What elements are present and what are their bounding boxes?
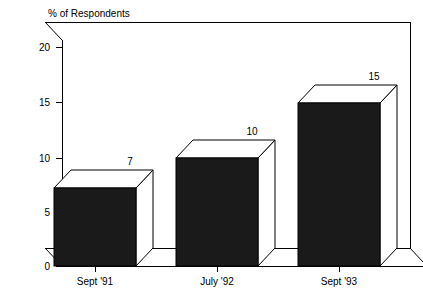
x-axis-ticks <box>95 266 339 272</box>
floor-right-diagonal <box>410 248 423 262</box>
y-tick-label-5: 5 <box>44 207 50 218</box>
x-axis-label-sept-91: Sept '91 <box>77 276 114 287</box>
y-tick-label-0: 0 <box>44 261 50 272</box>
bar-chart: 20 15 10 5 0 7 10 15 <box>0 0 423 295</box>
bar-1-front-face <box>54 188 136 266</box>
y-tick-label-20: 20 <box>39 42 51 53</box>
y-tick-label-10: 10 <box>39 153 51 164</box>
bar-3-value-label: 15 <box>368 71 380 82</box>
y-tick-label-15: 15 <box>39 97 51 108</box>
bar-3-top-face <box>298 85 397 103</box>
bar-group-sept-93 <box>298 85 397 266</box>
bar-2-value-label: 10 <box>246 126 258 137</box>
bar-2-front-face <box>176 158 258 266</box>
bar-2-top-face <box>176 140 275 158</box>
chart-svg: 20 15 10 5 0 7 10 15 <box>0 0 423 295</box>
chart-title: % of Respondents <box>48 8 130 19</box>
bar-group-sept-91 <box>54 170 153 266</box>
x-axis-label-sept-93: Sept '93 <box>321 276 358 287</box>
bar-1-value-label: 7 <box>127 156 133 167</box>
bar-2-side-face <box>258 140 275 266</box>
bar-1-top-face <box>54 170 153 188</box>
bar-group-july-92 <box>176 140 275 266</box>
wall-left-top-diagonal <box>45 22 62 40</box>
x-axis-label-july-92: July '92 <box>200 276 234 287</box>
bar-3-front-face <box>298 103 380 266</box>
bar-3-side-face <box>380 85 397 266</box>
